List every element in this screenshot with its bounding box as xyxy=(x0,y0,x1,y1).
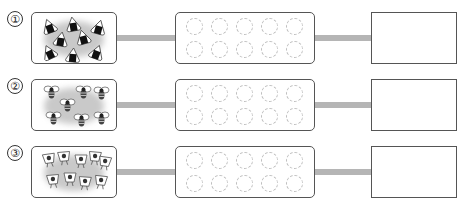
dashed-circle[interactable] xyxy=(261,18,278,35)
connector-line xyxy=(117,169,175,175)
onigiri-icons xyxy=(32,13,117,64)
dashed-circle[interactable] xyxy=(186,108,203,125)
dashed-circle[interactable] xyxy=(236,41,253,58)
connector-line xyxy=(117,35,175,41)
dashed-circle[interactable] xyxy=(236,85,253,102)
dashed-circle[interactable] xyxy=(236,108,253,125)
dashed-circle[interactable] xyxy=(261,108,278,125)
dashed-circle[interactable] xyxy=(211,18,228,35)
dashed-circle[interactable] xyxy=(286,152,303,169)
row-3: ③ xyxy=(0,146,468,200)
connector-line xyxy=(315,35,371,41)
dashed-circle[interactable] xyxy=(261,152,278,169)
ice-cream-icons xyxy=(32,147,117,198)
dashed-circle[interactable] xyxy=(186,152,203,169)
bee-icons xyxy=(32,80,117,131)
row-2: ② xyxy=(0,79,468,133)
dashed-circle[interactable] xyxy=(211,175,228,192)
dashed-circle[interactable] xyxy=(211,152,228,169)
picture-box-ice-cream xyxy=(31,146,117,198)
dashed-circle[interactable] xyxy=(186,175,203,192)
row-number-1: ① xyxy=(7,11,23,27)
connector-line xyxy=(315,169,371,175)
row-number-2: ② xyxy=(7,78,23,94)
ten-frame-1 xyxy=(175,12,315,64)
dashed-circle[interactable] xyxy=(211,108,228,125)
dashed-circle[interactable] xyxy=(261,85,278,102)
row-1: ① xyxy=(0,12,468,66)
dashed-circle[interactable] xyxy=(261,175,278,192)
picture-box-onigiri xyxy=(31,12,117,64)
dashed-circle[interactable] xyxy=(286,41,303,58)
dashed-circle[interactable] xyxy=(236,175,253,192)
dashed-circle[interactable] xyxy=(186,85,203,102)
dashed-circle[interactable] xyxy=(286,18,303,35)
ten-frame-3 xyxy=(175,146,315,198)
dashed-circle[interactable] xyxy=(211,41,228,58)
dashed-circle[interactable] xyxy=(186,18,203,35)
answer-box-3[interactable] xyxy=(371,146,457,198)
dashed-circle[interactable] xyxy=(286,85,303,102)
dashed-circle[interactable] xyxy=(261,41,278,58)
connector-line xyxy=(117,102,175,108)
ten-frame-2 xyxy=(175,79,315,131)
dashed-circle[interactable] xyxy=(236,18,253,35)
answer-box-1[interactable] xyxy=(371,12,457,64)
row-number-3: ③ xyxy=(7,145,23,161)
dashed-circle[interactable] xyxy=(211,85,228,102)
dashed-circle[interactable] xyxy=(286,175,303,192)
picture-box-bees xyxy=(31,79,117,131)
dashed-circle[interactable] xyxy=(236,152,253,169)
connector-line xyxy=(315,102,371,108)
dashed-circle[interactable] xyxy=(286,108,303,125)
dashed-circle[interactable] xyxy=(186,41,203,58)
answer-box-2[interactable] xyxy=(371,79,457,131)
